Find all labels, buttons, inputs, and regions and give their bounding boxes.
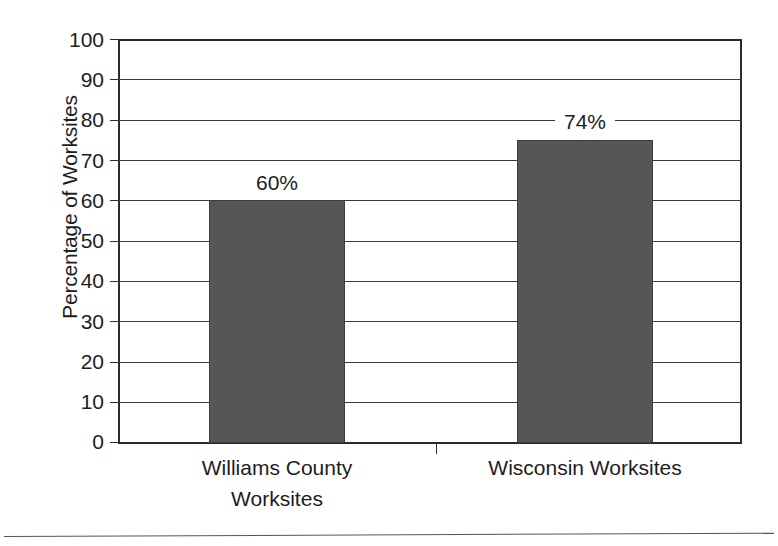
y-tick-mark	[110, 160, 118, 161]
bar-wisconsin-worksites[interactable]	[517, 140, 653, 443]
y-tick-mark	[110, 402, 118, 403]
bar-chart-figure: Percentage of Worksites 100 90 80 70 60 …	[0, 0, 778, 546]
plot-border-top	[118, 39, 742, 41]
y-tick-mark	[110, 241, 118, 242]
y-tick-mark	[110, 39, 118, 40]
gridline-80	[118, 120, 742, 121]
y-axis-tick-labels: 100 90 80 70 60 50 40 30 20 10 0	[0, 39, 118, 444]
y-tick-mark	[110, 362, 118, 363]
y-tick-mark	[110, 281, 118, 282]
bar-value-label-wisconsin: 74%	[555, 110, 615, 134]
x-tick-label-williams-county-worksites: Williams County Worksites	[202, 452, 353, 514]
bar-williams-county-worksites[interactable]	[209, 200, 345, 443]
x-tick-label-line1: Williams County	[202, 452, 353, 483]
y-tick-label: 50	[81, 229, 104, 253]
y-tick-mark	[110, 321, 118, 322]
y-tick-label: 0	[92, 430, 104, 454]
footer-divider	[4, 533, 774, 537]
y-tick-mark	[110, 442, 118, 443]
plot-area	[118, 39, 742, 443]
y-tick-label: 40	[81, 269, 104, 293]
y-tick-label: 70	[81, 149, 104, 173]
y-tick-label: 10	[81, 390, 104, 414]
x-tick-label-line1: Wisconsin Worksites	[488, 452, 681, 483]
y-tick-mark	[110, 120, 118, 121]
y-tick-label: 90	[81, 68, 104, 92]
y-tick-label: 30	[81, 310, 104, 334]
y-tick-label: 100	[69, 28, 104, 52]
x-axis-mid-tick	[436, 443, 437, 454]
y-tick-label: 20	[81, 350, 104, 374]
bar-value-label-williams-county: 60%	[247, 171, 307, 195]
y-tick-label: 80	[81, 108, 104, 132]
x-tick-label-wisconsin-worksites: Wisconsin Worksites	[488, 452, 681, 483]
y-tick-label: 60	[81, 189, 104, 213]
x-tick-label-line2: Worksites	[202, 483, 353, 514]
y-tick-mark	[110, 200, 118, 201]
gridline-90	[118, 79, 742, 80]
y-tick-mark	[110, 79, 118, 80]
